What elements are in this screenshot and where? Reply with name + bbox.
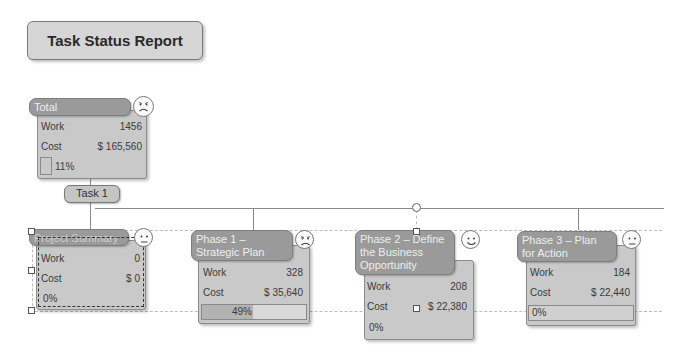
connector-handle[interactable]: [412, 203, 421, 212]
resize-handle-mid-left[interactable]: [28, 267, 35, 274]
node-phase-2-percent: 0%: [369, 322, 383, 333]
node-phase-1-cost: Cost $ 35,640: [203, 287, 303, 298]
node-total-cost: Cost $ 165,560: [41, 141, 142, 152]
node-phase-1-header[interactable]: Phase 1 – Strategic Plan: [191, 230, 293, 261]
node-phase-3-percent: 0%: [532, 307, 546, 318]
neutral-face-icon: [134, 228, 153, 247]
report-title[interactable]: Task Status Report: [27, 21, 203, 60]
node-project-summary-percent: 0%: [43, 293, 57, 304]
node-phase-2-work: Work 208: [367, 281, 467, 292]
connector-task-to-children: [90, 201, 91, 229]
sad-face-icon: [295, 230, 314, 249]
happy-face-icon: [461, 230, 480, 249]
connector-phase3: [578, 208, 579, 230]
report-title-label: Task Status Report: [47, 32, 183, 49]
node-phase-1-percent: 49%: [232, 306, 252, 317]
node-total-progress: [40, 157, 52, 175]
node-phase-3-cost: Cost $ 22,440: [530, 287, 630, 298]
node-phase-1-progress: [201, 304, 307, 320]
node-phase-3-header[interactable]: Phase 3 – Plan for Action: [517, 231, 617, 262]
connector-phase2-dashed: [416, 210, 417, 230]
neutral-face-icon: [622, 230, 641, 249]
resize-handle-bottom-left[interactable]: [28, 307, 35, 314]
node-project-summary-cost: Cost $ 0: [41, 273, 140, 284]
node-total-work: Work 1456: [41, 121, 142, 132]
resize-handle-center[interactable]: [413, 305, 420, 312]
node-total-header[interactable]: Total: [29, 98, 131, 116]
connector-endpoint-handle[interactable]: [413, 228, 420, 235]
task-group-pill[interactable]: Task 1: [64, 185, 120, 203]
node-phase-2-header[interactable]: Phase 2 – Define the Business Opportunit…: [355, 230, 455, 275]
node-phase-1-work: Work 328: [203, 267, 303, 278]
resize-handle-top-left[interactable]: [28, 228, 35, 235]
node-phase-3-work: Work 184: [530, 267, 630, 278]
node-total-percent: 11%: [55, 161, 74, 172]
sad-face-icon: [133, 96, 154, 117]
node-project-summary-work: Work 0: [41, 253, 140, 264]
connector-phase1: [253, 208, 254, 230]
